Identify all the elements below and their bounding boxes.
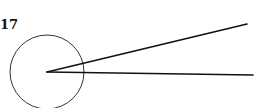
upper-ray: [47, 24, 247, 72]
angle-diagram: [0, 0, 258, 108]
lower-ray: [47, 72, 253, 75]
